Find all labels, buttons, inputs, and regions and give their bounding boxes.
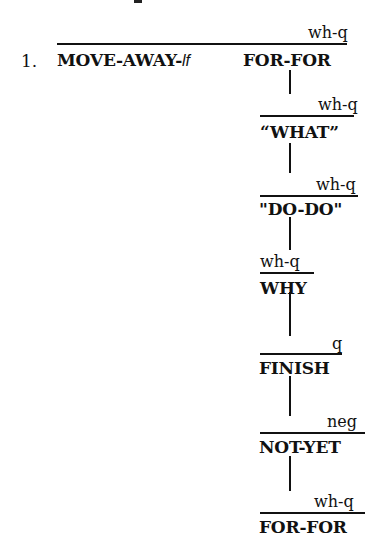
cutoff-text-fragment [134,0,142,3]
gloss-what: “WHAT” [260,123,339,141]
gloss-finish: FINISH [259,359,330,377]
nonmanual-marker: wh-q [316,177,356,193]
nonmanual-marker: q [332,336,342,352]
nonmanual-scope-line [260,115,354,117]
connector-line [289,456,291,491]
connector-line [289,143,291,173]
connector-line [289,217,291,250]
nonmanual-marker-main: wh-q [308,25,348,41]
nonmanual-marker: wh-q [260,254,300,270]
nonmanual-scope-line-main [57,43,347,45]
gloss-do-do: "DO-DO" [259,200,342,218]
nonmanual-scope-line [260,195,358,197]
gloss-lf-suffix: lf [182,52,190,69]
nonmanual-marker: wh-q [314,494,354,510]
gloss-why: WHY [260,279,307,297]
connector-line [289,70,291,94]
nonmanual-scope-line [260,272,314,274]
nonmanual-scope-line [260,353,342,355]
gloss-move-away-text: MOVE-AWAY- [57,50,182,70]
nonmanual-marker: wh-q [318,97,358,113]
connector-line [289,292,291,336]
gloss-move-away: MOVE-AWAY-lf [57,51,190,70]
gloss-for-for-main: FOR-FOR [243,51,331,69]
gloss-not-yet: NOT-YET [259,438,341,456]
example-number: 1. [21,52,37,70]
connector-line [289,376,291,416]
nonmanual-marker: neg [327,414,357,430]
nonmanual-scope-line [260,512,365,514]
nonmanual-scope-line [260,432,365,434]
gloss-for-for-final: FOR-FOR [259,518,347,536]
